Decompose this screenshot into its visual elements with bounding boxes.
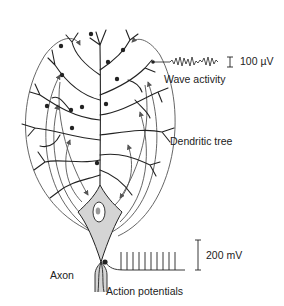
wave-scale-bar — [227, 57, 233, 67]
axon-label: Axon — [50, 270, 74, 281]
ap-scale-bar — [195, 240, 201, 270]
wave-scale-label: 100 µV — [240, 56, 274, 67]
wave-activity-label: Wave activity — [164, 74, 225, 85]
ap-scale-label: 200 mV — [206, 250, 242, 261]
wave-activity-trace — [151, 57, 218, 66]
synapse-dots — [45, 32, 125, 165]
action-potential-trace — [102, 252, 185, 270]
soma — [78, 185, 122, 262]
action-potentials-label: Action potentials — [106, 286, 183, 297]
neuron-diagram: 100 µV Wave activity Dendritic tree 200 … — [0, 0, 284, 306]
dendritic-tree-label: Dendritic tree — [170, 136, 232, 147]
